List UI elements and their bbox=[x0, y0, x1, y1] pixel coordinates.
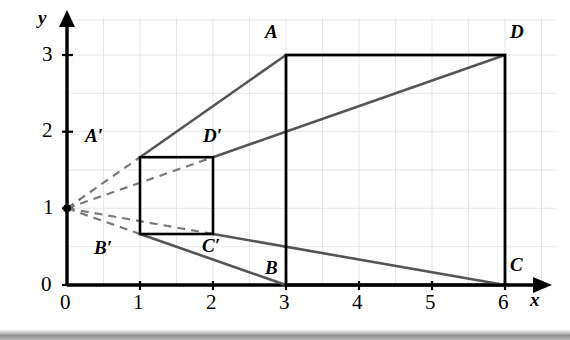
diagram-canvas: A B C D A′ B′ C′ D′ y x 0 1 2 3 4 5 6 0 … bbox=[0, 0, 570, 340]
x-axis-label: x bbox=[530, 290, 540, 309]
point-label-D-prime: D′ bbox=[203, 126, 222, 145]
grid-lines bbox=[67, 18, 556, 285]
x-tick-4: 4 bbox=[352, 292, 363, 313]
point-label-C-prime: C′ bbox=[202, 236, 220, 255]
y-tick-0: 0 bbox=[41, 274, 52, 295]
x-tick-0: 0 bbox=[60, 292, 71, 313]
bottom-edge-strip bbox=[0, 330, 570, 340]
y-tick-1: 1 bbox=[43, 197, 54, 218]
point-label-C: C bbox=[510, 255, 523, 274]
x-tick-5: 5 bbox=[425, 292, 436, 313]
x-tick-2: 2 bbox=[206, 292, 217, 313]
y-tick-2: 2 bbox=[42, 120, 53, 141]
point-label-B-prime: B′ bbox=[94, 238, 112, 257]
geometry-figure bbox=[0, 0, 570, 340]
y-axis-arrow bbox=[59, 10, 75, 27]
point-label-A: A bbox=[265, 22, 278, 41]
x-tick-1: 1 bbox=[133, 292, 144, 313]
point-label-B: B bbox=[265, 258, 278, 277]
x-tick-3: 3 bbox=[279, 292, 290, 313]
y-tick-3: 3 bbox=[42, 44, 53, 65]
projection-center-point bbox=[63, 204, 71, 212]
x-tick-6: 6 bbox=[498, 292, 509, 313]
axis-ticks bbox=[62, 55, 505, 290]
point-label-D: D bbox=[510, 22, 524, 41]
y-axis-label: y bbox=[38, 8, 46, 27]
point-label-A-prime: A′ bbox=[85, 126, 103, 145]
